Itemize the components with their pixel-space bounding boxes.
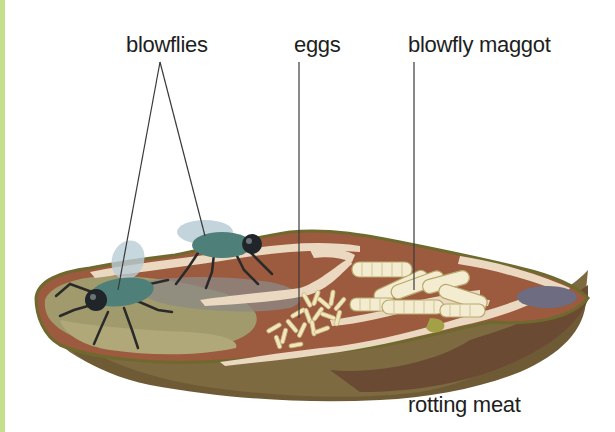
illustration bbox=[0, 0, 615, 432]
blowflies-leader-line-2 bbox=[160, 62, 205, 236]
label-blowfly-maggot: blowfly maggot bbox=[408, 34, 551, 56]
diagram-canvas: blowflies eggs blowfly maggot rotting me… bbox=[0, 0, 615, 432]
label-eggs: eggs bbox=[294, 34, 341, 56]
label-blowflies: blowflies bbox=[126, 34, 208, 56]
label-rotting-meat: rotting meat bbox=[408, 394, 521, 416]
